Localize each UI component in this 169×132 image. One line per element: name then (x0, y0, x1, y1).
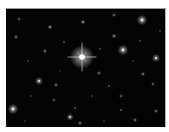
star (155, 110, 156, 111)
star (44, 50, 45, 51)
star (64, 42, 65, 43)
star (113, 35, 114, 36)
star (100, 49, 101, 50)
star (160, 31, 161, 32)
star (120, 95, 121, 96)
bright-star (68, 43, 96, 71)
star (141, 19, 144, 22)
star (28, 61, 29, 62)
star (152, 83, 153, 84)
star (38, 80, 40, 82)
star (79, 122, 80, 123)
star-field-image (6, 8, 166, 127)
stars-group (8, 13, 162, 125)
star (134, 119, 135, 120)
star (155, 57, 157, 59)
star (98, 72, 99, 73)
star (15, 36, 16, 37)
star (113, 14, 114, 15)
star (109, 86, 110, 87)
star (18, 18, 19, 19)
star (104, 121, 105, 122)
star (75, 108, 76, 109)
star (122, 49, 125, 52)
star (25, 121, 26, 122)
star (142, 73, 143, 74)
star (55, 84, 56, 85)
bright-star-core (79, 54, 85, 60)
star (133, 61, 134, 62)
star (140, 41, 141, 42)
star (49, 26, 50, 27)
star (31, 96, 32, 97)
star (69, 116, 71, 118)
star-field-canvas (6, 9, 166, 127)
star (60, 71, 61, 72)
star (92, 96, 93, 97)
star (53, 99, 54, 100)
star (121, 110, 122, 111)
star (12, 108, 15, 111)
star (82, 21, 83, 22)
